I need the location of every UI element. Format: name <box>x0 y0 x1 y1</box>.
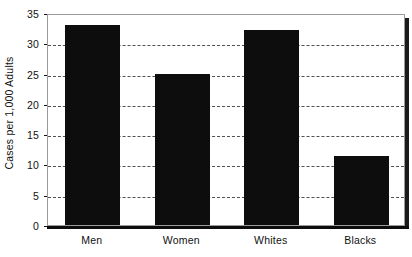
plot-area <box>47 14 405 226</box>
x-axis-label-blacks: Blacks <box>310 234 410 246</box>
plot-inner <box>48 15 404 225</box>
y-axis-tick-label: 5 <box>17 190 39 201</box>
bar-men <box>65 25 120 225</box>
y-axis-tick-label: 30 <box>17 39 39 50</box>
y-axis-tick-label: 15 <box>17 130 39 141</box>
y-axis-tick-label: 10 <box>17 160 39 171</box>
y-axis-tick-label: 35 <box>17 9 39 20</box>
bar-women <box>155 74 210 225</box>
y-axis-tick-labels: 05101520253035 <box>17 0 39 257</box>
y-axis-title: Cases per 1,000 Adults <box>0 0 18 226</box>
x-axis-label-whites: Whites <box>221 234 321 246</box>
x-axis-label-men: Men <box>42 234 142 246</box>
bar-whites <box>244 30 299 225</box>
bar-blacks <box>334 156 389 225</box>
x-axis-baseline <box>47 226 409 229</box>
bar-chart-figure: Cases per 1,000 Adults 05101520253035 Me… <box>0 0 412 257</box>
y-axis-tick-label: 20 <box>17 100 39 111</box>
y-axis-tick-label: 25 <box>17 69 39 80</box>
x-axis-label-women: Women <box>131 234 231 246</box>
y-axis-tick-label: 0 <box>17 221 39 232</box>
